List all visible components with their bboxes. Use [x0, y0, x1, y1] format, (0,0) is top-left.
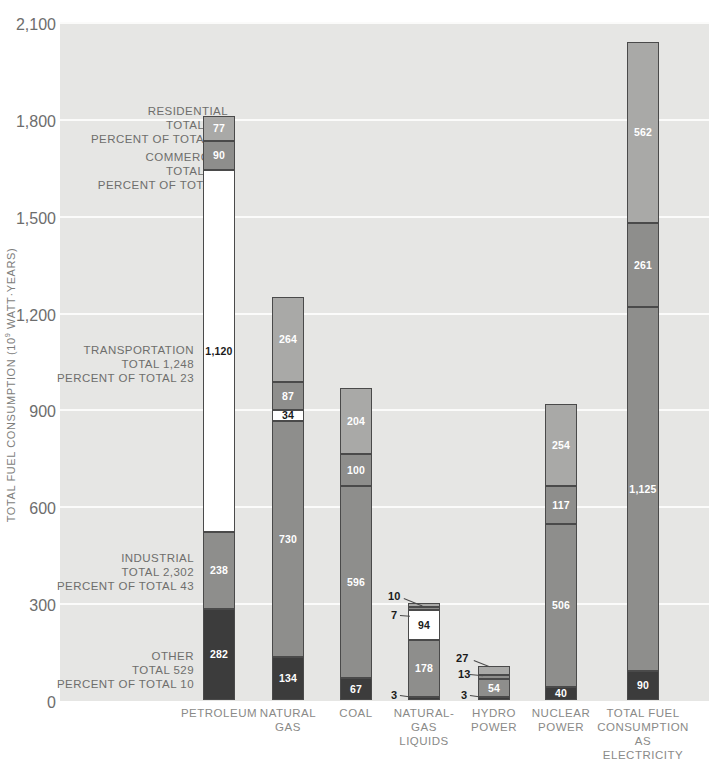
gridline-300 [60, 603, 709, 605]
stacked-bar-chart: 2,100 1,800 1,500 1,200 900 600 300 0 TO… [0, 0, 709, 769]
segment-coal-commercial[interactable]: 100 [340, 454, 372, 486]
segment-electricity-residential[interactable]: 562 [627, 42, 659, 223]
bar-natural-gas[interactable]: 134 730 34 87 264 [272, 297, 304, 700]
segment-hydro-industrial[interactable]: 54 [478, 679, 510, 697]
segment-value: 596 [347, 577, 365, 588]
y-tick-label: 1,200 [16, 307, 56, 324]
sector-percent: PERCENT OF TOTAL 8 [0, 178, 228, 192]
callout-ngl-commercial: 7 [391, 609, 397, 621]
segment-value: 90 [213, 150, 225, 161]
segment-value: 178 [415, 663, 433, 674]
segment-value: 34 [282, 410, 294, 421]
segment-ngl-residential[interactable]: 10 [408, 603, 440, 607]
segment-value: 100 [347, 465, 365, 476]
sector-total: TOTAL 414 [0, 164, 228, 178]
segment-value: 730 [279, 534, 297, 545]
segment-electricity-industrial[interactable]: 1,125 [627, 307, 659, 671]
segment-nuclear-industrial[interactable]: 506 [545, 524, 577, 687]
bar-nuclear-power[interactable]: 40 506 117 254 [545, 404, 577, 700]
y-tick-label: 900 [29, 403, 56, 420]
y-tick-label: 1,500 [16, 210, 56, 227]
segment-petroleum-transportation[interactable]: 1,120 [203, 170, 235, 532]
sector-total: TOTAL 2,302 [0, 565, 194, 579]
segment-ngl-industrial[interactable]: 178 [408, 640, 440, 697]
bar-total-electricity[interactable]: 90 1,125 261 562 [627, 42, 659, 700]
bar-petroleum[interactable]: 282 238 1,120 90 77 [203, 116, 235, 700]
segment-value: 1,125 [629, 484, 656, 495]
segment-value: 282 [210, 649, 228, 660]
segment-electricity-commercial[interactable]: 261 [627, 223, 659, 307]
sector-name: COMMERCIAL [0, 150, 228, 164]
segment-value: 67 [350, 684, 362, 695]
segment-value: 134 [279, 673, 297, 684]
y-tick-label: 0 [47, 694, 56, 711]
segment-petroleum-commercial[interactable]: 90 [203, 141, 235, 170]
sector-annotation-residential: RESIDENTIAL TOTAL 836 PERCENT OF TOTAL 1… [0, 104, 228, 146]
segment-petroleum-other[interactable]: 282 [203, 609, 235, 700]
callout-ngl-other: 3 [391, 689, 397, 701]
segment-value: 238 [210, 565, 228, 576]
segment-nuclear-other[interactable]: 40 [545, 687, 577, 700]
segment-natural-gas-transportation[interactable]: 34 [272, 410, 304, 421]
segment-ngl-commercial[interactable]: 7 [408, 607, 440, 610]
segment-natural-gas-residential[interactable]: 264 [272, 297, 304, 382]
segment-petroleum-residential[interactable]: 77 [203, 116, 235, 141]
segment-coal-other[interactable]: 67 [340, 678, 372, 700]
segment-nuclear-commercial[interactable]: 117 [545, 486, 577, 524]
sector-annotation-transportation: TRANSPORTATION TOTAL 1,248 PERCENT OF TO… [0, 343, 194, 385]
segment-value: 87 [282, 391, 294, 402]
sector-annotation-other: OTHER TOTAL 529 PERCENT OF TOTAL 10 [0, 649, 194, 691]
callout-hydro-residential: 27 [456, 652, 469, 664]
category-label-total-electricity: TOTAL FUEL CONSUMPTION AS ELECTRICITY [595, 706, 691, 762]
segment-value: 77 [213, 123, 225, 134]
segment-value: 261 [634, 260, 652, 271]
callout-hydro-commercial: 13 [458, 668, 471, 680]
segment-value: 40 [555, 688, 567, 699]
segment-value: 562 [634, 127, 652, 138]
gridline-900 [60, 409, 709, 411]
sector-percent: PERCENT OF TOTAL 10 [0, 677, 194, 691]
sector-total: TOTAL 529 [0, 663, 194, 677]
sector-name: INDUSTRIAL [0, 551, 194, 565]
segment-ngl-transportation[interactable]: 94 [408, 610, 440, 640]
sector-total: TOTAL 1,248 [0, 357, 194, 371]
segment-coal-industrial[interactable]: 596 [340, 486, 372, 678]
y-tick-label: 2,100 [16, 16, 56, 33]
category-label-line: CONSUMPTION [595, 720, 691, 734]
sector-name: OTHER [0, 649, 194, 663]
callout-ngl-residential: 10 [388, 590, 401, 602]
y-tick-label: 600 [29, 500, 56, 517]
bar-coal[interactable]: 67 596 100 204 [340, 388, 372, 700]
segment-value: 254 [552, 440, 570, 451]
segment-value: 506 [552, 600, 570, 611]
bar-hydro-power[interactable]: 3 54 13 27 [478, 669, 510, 700]
segment-value: 117 [552, 500, 570, 511]
sector-annotation-industrial: INDUSTRIAL TOTAL 2,302 PERCENT OF TOTAL … [0, 551, 194, 593]
y-tick-label: 300 [29, 597, 56, 614]
category-label-line: LIQUIDS [376, 734, 472, 748]
category-label-line: ELECTRICITY [595, 748, 691, 762]
segment-electricity-other[interactable]: 90 [627, 671, 659, 700]
segment-hydro-residential[interactable]: 27 [478, 666, 510, 675]
segment-nuclear-residential[interactable]: 254 [545, 404, 577, 486]
segment-ngl-other[interactable]: 3 [408, 697, 440, 700]
segment-hydro-other[interactable]: 3 [478, 697, 510, 700]
gridline-600 [60, 506, 709, 508]
segment-value: 264 [279, 334, 297, 345]
bar-natural-gas-liquids[interactable]: 3 178 94 7 10 [408, 606, 440, 700]
sector-percent: PERCENT OF TOTAL 43 [0, 579, 194, 593]
sector-annotation-commercial: COMMERCIAL TOTAL 414 PERCENT OF TOTAL 8 [0, 150, 228, 192]
gridline-1200 [60, 313, 709, 315]
callout-hydro-other: 3 [461, 689, 467, 701]
segment-value: 1,120 [205, 346, 232, 357]
gridline-2100 [60, 22, 709, 24]
category-label-line: GAS [240, 720, 336, 734]
segment-natural-gas-other[interactable]: 134 [272, 657, 304, 700]
sector-percent: PERCENT OF TOTAL 23 [0, 371, 194, 385]
segment-petroleum-industrial[interactable]: 238 [203, 532, 235, 609]
segment-natural-gas-commercial[interactable]: 87 [272, 382, 304, 410]
y-axis-title-exponent: 9 [3, 332, 12, 337]
segment-natural-gas-industrial[interactable]: 730 [272, 421, 304, 657]
segment-value: 90 [637, 680, 649, 691]
segment-coal-residential[interactable]: 204 [340, 388, 372, 454]
